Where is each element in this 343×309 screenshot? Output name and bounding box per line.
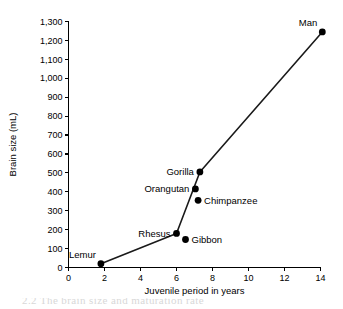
data-point-rhesus[interactable] — [173, 230, 180, 237]
x-axis-tick-label: 10 — [243, 273, 253, 283]
data-point-chimpanzee[interactable] — [195, 197, 202, 204]
data-point-label-gibbon: Gibbon — [192, 234, 223, 245]
brain-size-scatter-chart: 01002003004005006007008009001,0001,1001,… — [0, 0, 343, 309]
x-axis-tick-label: 12 — [279, 273, 289, 283]
data-point-label-gorilla: Gorilla — [166, 166, 194, 177]
data-point-label-orangutan: Orangutan — [144, 183, 189, 194]
y-axis-tick-label: 500 — [47, 168, 62, 178]
y-axis-tick-label: 400 — [47, 187, 62, 197]
data-point-man[interactable] — [319, 29, 326, 36]
x-axis-title: Juvenile period in years — [145, 285, 245, 296]
data-point-gibbon[interactable] — [182, 236, 189, 243]
y-axis-tick-label: 800 — [47, 111, 62, 121]
x-axis-tick-label: 0 — [66, 273, 71, 283]
figure-caption-text: 2.2 The brain size and maturation rate — [22, 298, 204, 306]
data-point-label-lemur: Lemur — [69, 249, 96, 260]
y-axis-tick-label: 600 — [47, 149, 62, 159]
data-point-lemur[interactable] — [98, 260, 105, 267]
y-axis-tick-label: 1,100 — [40, 55, 63, 65]
x-axis-tick-label: 8 — [210, 273, 215, 283]
x-axis-tick-label: 2 — [102, 273, 107, 283]
x-axis-tick-label: 6 — [174, 273, 179, 283]
y-axis-tick-label: 0 — [57, 263, 62, 273]
data-point-orangutan[interactable] — [192, 186, 199, 193]
figure-caption: 2.2 The brain size and maturation rate — [0, 298, 343, 309]
x-axis-tick-label: 14 — [315, 273, 325, 283]
y-axis-title: Brain size (mL) — [7, 113, 18, 177]
y-axis-tick-label: 200 — [47, 225, 62, 235]
y-axis-tick-label: 700 — [47, 130, 62, 140]
y-axis-tick-label: 900 — [47, 92, 62, 102]
y-axis-tick-label: 1,200 — [40, 36, 63, 46]
data-point-label-rhesus: Rhesus — [138, 228, 170, 239]
y-axis-tick-label: 1,300 — [40, 17, 63, 27]
y-axis-tick-label: 300 — [47, 206, 62, 216]
data-point-label-chimpanzee: Chimpanzee — [204, 195, 257, 206]
y-axis-tick-label: 100 — [47, 244, 62, 254]
data-series-line — [101, 32, 322, 264]
data-point-gorilla[interactable] — [197, 169, 204, 176]
x-axis-tick-label: 4 — [138, 273, 143, 283]
y-axis-tick-label: 1,000 — [40, 73, 63, 83]
chart-figure: 01002003004005006007008009001,0001,1001,… — [0, 0, 343, 309]
chart-axes — [69, 22, 321, 268]
data-point-label-man: Man — [299, 17, 317, 28]
